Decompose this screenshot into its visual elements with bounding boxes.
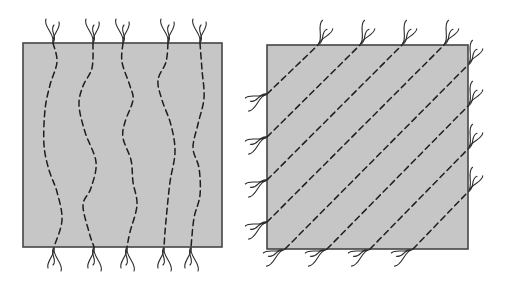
panel-wavy-vertical-fibers [23, 19, 222, 271]
frayed-fiber-end [318, 20, 333, 45]
sample-square [23, 43, 222, 247]
frayed-fiber-end [85, 19, 99, 43]
fiber-orientation-diagram [0, 0, 507, 291]
frayed-fiber-end [348, 249, 370, 266]
frayed-fiber-end [160, 19, 174, 43]
frayed-fiber-end [391, 249, 413, 266]
frayed-fiber-end [245, 137, 267, 154]
frayed-fiber-end [115, 19, 129, 43]
frayed-fiber-end [468, 40, 483, 65]
frayed-fiber-end [45, 19, 59, 43]
frayed-fiber-end [185, 247, 199, 271]
frayed-fiber-end [305, 249, 327, 266]
frayed-fiber-end [48, 247, 62, 271]
sample-square [267, 45, 468, 249]
frayed-fiber-end [158, 247, 172, 271]
frayed-fiber-end [245, 94, 267, 111]
frayed-fiber-end [245, 222, 267, 239]
frayed-fiber-end [121, 247, 135, 271]
frayed-fiber-end [468, 81, 483, 106]
frayed-fiber-end [468, 167, 483, 192]
panel-diagonal-fibers [245, 20, 482, 266]
frayed-fiber-end [444, 20, 459, 45]
frayed-fiber-end [402, 20, 417, 45]
frayed-fiber-end [263, 249, 285, 266]
frayed-fiber-end [192, 19, 206, 43]
frayed-fiber-end [88, 247, 102, 271]
frayed-fiber-end [245, 180, 267, 197]
frayed-fiber-end [468, 124, 483, 149]
frayed-fiber-end [360, 20, 375, 45]
